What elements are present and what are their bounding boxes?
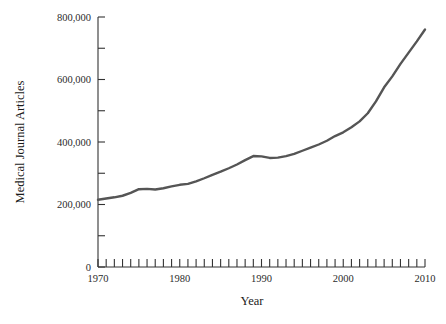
y-axis-title: Medical Journal Articles [13, 80, 27, 203]
chart-figure: 0200,000400,000600,000800,000 1970198019… [0, 0, 446, 324]
y-axis-tick-labels: 0200,000400,000600,000800,000 [57, 12, 91, 273]
x-tick-label: 1970 [88, 273, 109, 284]
x-axis-ticks [98, 259, 425, 267]
data-series-group [98, 30, 425, 200]
y-tick-label: 400,000 [57, 137, 91, 148]
x-tick-label: 1990 [251, 273, 272, 284]
y-tick-label: 200,000 [57, 199, 91, 210]
x-axis-tick-labels: 19701980199020002010 [88, 273, 436, 284]
y-axis-ticks [98, 17, 105, 267]
series-line-medical-journal-articles [98, 30, 425, 200]
line-chart: 0200,000400,000600,000800,000 1970198019… [0, 0, 446, 324]
y-tick-label: 600,000 [57, 74, 91, 85]
x-axis-title: Year [240, 294, 264, 308]
x-tick-label: 1980 [169, 273, 190, 284]
y-tick-label: 800,000 [57, 12, 91, 23]
y-tick-label: 0 [86, 262, 91, 273]
x-tick-label: 2000 [333, 273, 354, 284]
y-axis: 0200,000400,000600,000800,000 [57, 12, 105, 273]
x-axis: 19701980199020002010 [88, 259, 436, 284]
x-tick-label: 2010 [415, 273, 436, 284]
